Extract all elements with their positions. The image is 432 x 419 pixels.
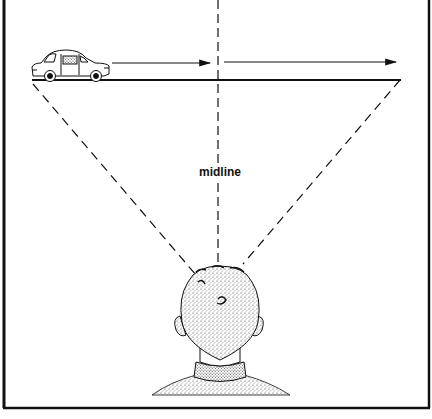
- observer-icon: [152, 266, 290, 395]
- car-icon: [32, 50, 109, 82]
- midline-label: midline: [197, 165, 243, 179]
- diagram-canvas: midline: [0, 0, 432, 419]
- left-sightline-dashed: [33, 84, 196, 275]
- right-sightline-dashed: [243, 80, 400, 264]
